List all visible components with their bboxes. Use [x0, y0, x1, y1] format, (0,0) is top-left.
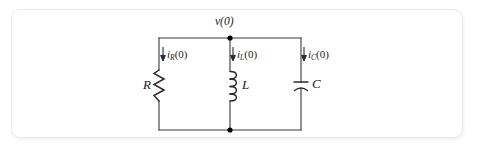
- node-dot-top: [227, 35, 232, 40]
- current-label-iC: iC(0): [308, 49, 329, 61]
- current-argument-iC: (0): [316, 48, 329, 60]
- current-label-iL: iL(0): [237, 49, 257, 61]
- capacitor-label: C: [312, 77, 321, 90]
- resistor-label: R: [143, 78, 151, 91]
- inductor-symbol: [230, 72, 236, 102]
- node-dot-bottom: [227, 127, 232, 132]
- node-voltage-text: v(0): [215, 15, 234, 27]
- current-arrow-iR: [161, 47, 166, 61]
- resistor-symbol: [154, 70, 164, 101]
- current-argument-iL: (0): [244, 48, 257, 60]
- current-arrow-iC: [302, 47, 307, 61]
- current-label-iR: iR(0): [167, 49, 187, 61]
- current-arrow-iL: [231, 47, 236, 61]
- node-voltage-label: v(0): [215, 16, 234, 28]
- inductor-label: L: [242, 78, 249, 91]
- current-argument-iR: (0): [175, 48, 188, 60]
